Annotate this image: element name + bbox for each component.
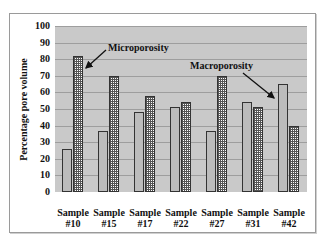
arrow-to-macroporosity bbox=[243, 73, 274, 98]
arrow-to-microporosity bbox=[86, 50, 106, 68]
annotation-arrows bbox=[0, 0, 326, 249]
